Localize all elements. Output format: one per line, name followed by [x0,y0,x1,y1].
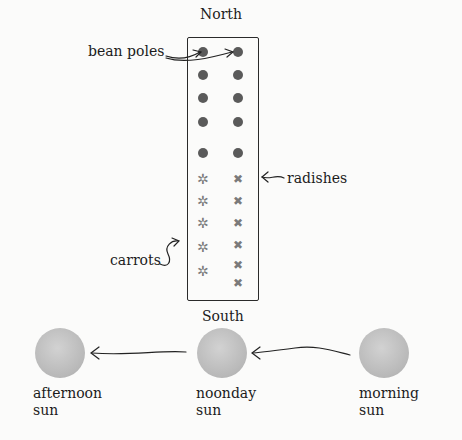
bean-poles-arrow-1 [166,52,200,58]
morning-to-noon-arrow [253,347,350,355]
noon-to-afternoon-arrow [92,352,186,354]
arrows-layer [0,0,462,440]
radishes-arrow [262,177,284,178]
